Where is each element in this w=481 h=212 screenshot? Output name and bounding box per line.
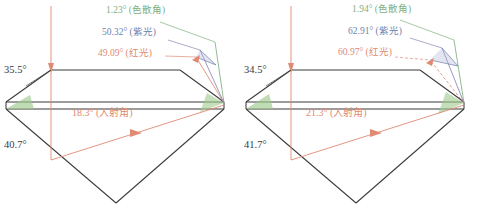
pavilion-left-facet: [6, 109, 116, 203]
dispersion-angle-label-left: 1.23° (色散角): [106, 6, 165, 16]
red-label-leader: [395, 57, 430, 60]
red-angle-label-right: 60.97° (红光): [338, 48, 392, 58]
crown-angle-line: [266, 70, 291, 86]
diamond-outline-right: [246, 70, 464, 203]
incidence-angle-label-right: 21.3° (入射角): [306, 108, 367, 118]
exit-rays-left: [160, 22, 224, 103]
incidence-angle-label-left: 18.3° (入射角): [72, 108, 133, 118]
crown-right-facet: [180, 70, 224, 102]
diamond-outline-left: [6, 70, 224, 203]
diamond-panel-right: 34.5° 41.7° 21.3° (入射角) 1.94° (色散角) 62.9…: [240, 0, 481, 212]
dispersion-leader: [454, 40, 464, 103]
pavilion-angle-label-right: 41.7°: [244, 140, 267, 151]
dispersion-wedge: [430, 48, 458, 66]
diamond-panel-left: 35.5° 40.7° 18.3° (入射角) 1.23° (色散角) 50.3…: [0, 0, 241, 212]
red-exit-arrow: [426, 58, 434, 66]
internal-ray-arrow: [130, 129, 142, 137]
dispersion-label-leader: [160, 22, 215, 42]
pavilion-left-facet: [246, 109, 356, 203]
violet-label-leader: [168, 40, 200, 50]
red-angle-label-left: 49.09° (红光): [98, 49, 152, 59]
dispersion-label-leader: [400, 20, 454, 40]
crown-angle-label-right: 34.5°: [244, 65, 267, 76]
dispersion-angle-label-right: 1.94° (色散角): [352, 5, 411, 15]
pavilion-right-facet: [116, 109, 224, 203]
violet-label-leader: [410, 38, 442, 48]
violet-angle-label-left: 50.32° (紫光): [102, 28, 156, 38]
dispersion-figure: 35.5° 40.7° 18.3° (入射角) 1.23° (色散角) 50.3…: [0, 0, 481, 212]
pavilion-right-facet: [356, 109, 464, 203]
internal-ray-arrow: [370, 129, 382, 137]
exit-angle-wedge: [438, 92, 464, 114]
violet-angle-label-right: 62.91° (紫光): [348, 27, 402, 37]
crown-angle-leader-left: [26, 70, 51, 86]
crown-angle-line: [26, 70, 51, 86]
crown-angle-label-left: 35.5°: [4, 65, 27, 76]
red-label-leader: [165, 56, 196, 57]
pavilion-angle-label-left: 40.7°: [4, 140, 27, 151]
crown-angle-leader-right: [266, 70, 291, 86]
